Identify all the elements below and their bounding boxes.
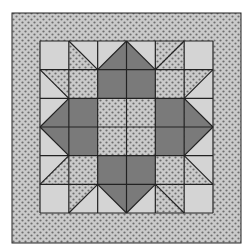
quilt-square — [184, 184, 213, 213]
quilt-square — [98, 98, 127, 127]
quilt-square — [69, 70, 98, 99]
quilt-square — [127, 156, 156, 185]
quilt-square — [40, 184, 69, 213]
quilt-square — [69, 156, 98, 185]
quilt-square — [98, 127, 127, 156]
quilt-square — [127, 127, 156, 156]
quilt-square — [155, 98, 184, 127]
quilt-square — [155, 156, 184, 185]
quilt-square — [69, 98, 98, 127]
quilt-block — [0, 0, 248, 252]
quilt-square — [127, 98, 156, 127]
quilt-square — [127, 70, 156, 99]
quilt-pattern-layer — [12, 13, 241, 243]
quilt-square — [184, 41, 213, 70]
quilt-square — [69, 127, 98, 156]
quilt-square — [98, 70, 127, 99]
quilt-square — [40, 41, 69, 70]
quilt-square — [155, 70, 184, 99]
quilt-square — [98, 156, 127, 185]
quilt-square — [155, 127, 184, 156]
